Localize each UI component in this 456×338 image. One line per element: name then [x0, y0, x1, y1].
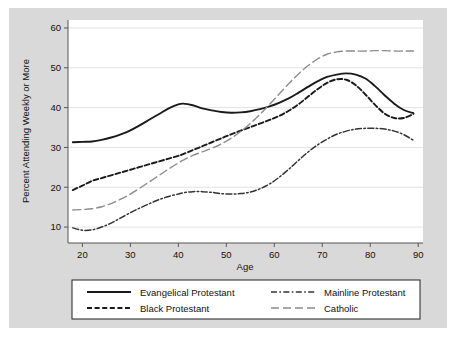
- y-tick-label: 20: [50, 182, 61, 193]
- legend-label: Catholic: [324, 303, 359, 314]
- line-chart: 102030405060 2030405060708090 Percent At…: [9, 8, 447, 328]
- x-tick-label: 40: [173, 249, 184, 260]
- x-tick-label: 70: [317, 249, 328, 260]
- x-tick-label: 90: [413, 249, 424, 260]
- y-tick-label: 10: [50, 221, 61, 232]
- x-tick-label: 60: [269, 249, 280, 260]
- x-axis-title: Age: [237, 261, 254, 272]
- x-axis-ticks: 2030405060708090: [77, 243, 423, 260]
- x-tick-label: 80: [365, 249, 376, 260]
- x-tick-label: 20: [77, 249, 88, 260]
- x-tick-label: 30: [125, 249, 136, 260]
- y-axis-title: Percent Attending Weekly or More: [20, 59, 31, 203]
- y-tick-label: 50: [50, 62, 61, 73]
- y-tick-label: 60: [50, 22, 61, 33]
- y-tick-label: 40: [50, 102, 61, 113]
- legend-label: Mainline Protestant: [324, 287, 406, 298]
- plot-container: 102030405060 2030405060708090 Percent At…: [9, 8, 447, 328]
- figure: 102030405060 2030405060708090 Percent At…: [0, 0, 456, 338]
- plot-area: [68, 20, 423, 243]
- x-tick-label: 50: [221, 249, 232, 260]
- chart-legend: Evangelical ProtestantMainline Protestan…: [72, 280, 420, 319]
- legend-label: Evangelical Protestant: [140, 287, 235, 298]
- y-tick-label: 30: [50, 142, 61, 153]
- y-axis-ticks: 102030405060: [50, 22, 68, 232]
- legend-label: Black Protestant: [140, 303, 210, 314]
